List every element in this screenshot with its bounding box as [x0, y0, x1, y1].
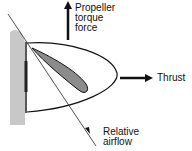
airflow-label-line2: airflow	[103, 137, 132, 147]
torque-label-line3: force	[75, 23, 97, 33]
hub-section	[10, 30, 25, 125]
thrust-label: Thrust	[157, 73, 185, 83]
airfoil-section	[32, 48, 88, 92]
blade-root-dark	[25, 61, 28, 92]
thrust-arrowhead	[145, 74, 153, 82]
torque-arrowhead	[64, 1, 72, 9]
